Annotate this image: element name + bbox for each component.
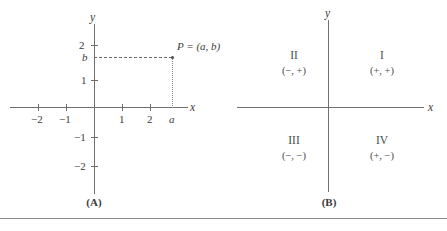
panel-a-y-axis [94,24,95,194]
quadrant-2-signs: (−, +) [263,64,325,78]
quadrant-4-roman: IV [351,133,413,149]
panel-b: x y I (+, +) II (−, +) III (−, −) IV (+,… [224,0,447,231]
quadrant-3-roman: III [263,133,325,149]
quadrant-1-signs: (+, +) [351,64,413,78]
panel-a-y-axis-label: y [90,12,95,24]
point-a-label: a [169,114,175,125]
quadrant-1: I (+, +) [351,48,413,78]
quadrant-4: IV (+, −) [351,133,413,163]
tick-label-y-neg2: −2 [74,161,86,172]
point-guide-vertical [172,57,173,108]
tick-label-y-neg1: −1 [74,132,86,143]
quadrant-2: II (−, +) [263,48,325,78]
tick-x-neg2 [38,104,39,111]
panel-a-x-axis-label: x [190,102,195,114]
tick-x-pos1 [122,104,123,111]
point-p-label: P = (a, b) [177,41,220,52]
tick-label-x-pos1: 1 [119,114,125,125]
quadrant-3: III (−, −) [263,133,325,163]
tick-label-x-pos2: 2 [147,114,153,125]
tick-label-x-neg2: −2 [31,114,43,125]
point-p-marker [171,56,174,59]
quadrant-3-signs: (−, −) [263,149,325,163]
tick-label-y-pos2: 2 [79,40,85,51]
tick-y-neg1 [91,137,98,138]
panel-b-x-axis-label: x [428,102,433,114]
panel-b-y-axis-label: y [325,8,330,20]
point-b-label: b [82,52,88,63]
quadrant-1-roman: I [351,48,413,64]
panel-a-x-axis [10,107,188,108]
coordinate-plane-figure: x y −2 −1 1 2 2 1 −1 −2 P = (a, b) b a (… [0,0,447,231]
tick-x-neg1 [66,104,67,111]
tick-y-pos1 [91,80,98,81]
panel-b-y-axis [328,20,329,192]
panel-a-caption: (A) [64,196,124,208]
panel-a: x y −2 −1 1 2 2 1 −1 −2 P = (a, b) b a (… [0,0,224,231]
panel-b-x-axis [237,107,424,108]
tick-y-neg2 [91,166,98,167]
quadrant-2-roman: II [263,48,325,64]
panel-b-caption: (B) [299,196,359,208]
tick-label-x-neg1: −1 [59,114,71,125]
bottom-divider [0,218,447,219]
tick-label-y-pos1: 1 [81,75,87,86]
tick-x-pos2 [150,104,151,111]
point-guide-horizontal [94,57,172,58]
tick-y-pos2 [91,45,98,46]
quadrant-4-signs: (+, −) [351,149,413,163]
